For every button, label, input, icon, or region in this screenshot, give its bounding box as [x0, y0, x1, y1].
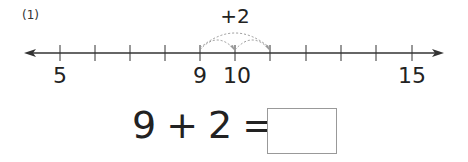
- tick-label-10: 10: [223, 65, 251, 87]
- equation-left-operand: 9: [132, 106, 158, 144]
- plus-sign: +: [166, 106, 200, 144]
- jump-arc-9-10: [200, 40, 235, 50]
- jump-arc-10-11: [235, 40, 270, 50]
- tick-label-15: 15: [398, 65, 426, 87]
- arc-arrowhead-icon: [230, 45, 235, 51]
- jump-label: +2: [220, 6, 249, 26]
- tick-label-5: 5: [53, 65, 67, 87]
- equation: 9 + 2 =: [132, 106, 276, 144]
- equation-right-operand: 2: [208, 106, 234, 144]
- tick-label-9: 9: [193, 65, 207, 87]
- answer-box[interactable]: [267, 108, 337, 154]
